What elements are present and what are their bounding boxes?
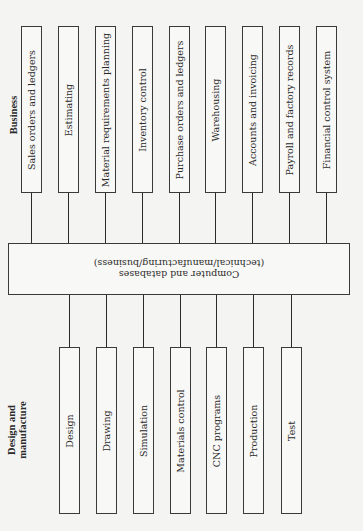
- connector-line: [143, 295, 144, 347]
- connector-line: [326, 193, 327, 243]
- business-item-box: Payroll and factory records: [279, 26, 300, 193]
- connector-line: [215, 193, 216, 243]
- connector-line: [31, 193, 32, 243]
- center-line1: Computer and databases: [94, 269, 265, 280]
- connector-line: [291, 295, 292, 347]
- design-item-label: CNC programs: [212, 394, 222, 466]
- business-item-box: Financial control system: [316, 26, 337, 193]
- business-item-label: Warehousing: [211, 78, 221, 141]
- business-item-label: Financial control system: [322, 50, 332, 168]
- connector-line: [179, 193, 180, 243]
- business-item-box: Estimating: [58, 26, 79, 193]
- connector-line: [105, 193, 106, 243]
- design-label-line1: Design and: [6, 401, 17, 459]
- business-item-label: Purchase orders and ledgers: [175, 40, 185, 179]
- connector-line: [142, 193, 143, 243]
- business-item-label: Estimating: [64, 83, 74, 135]
- design-item-label: Test: [287, 421, 297, 441]
- connector-line: [253, 295, 254, 347]
- design-item-label: Design: [65, 414, 75, 447]
- business-item-label: Payroll and factory records: [285, 44, 295, 175]
- design-item-box: Drawing: [96, 347, 117, 514]
- business-section-label: Business: [8, 96, 19, 135]
- design-item-label: Production: [249, 404, 259, 457]
- business-item-box: Warehousing: [205, 26, 226, 193]
- business-item-box: Sales orders and ledgers: [21, 26, 42, 193]
- design-item-box: CNC programs: [206, 347, 227, 514]
- connector-line: [252, 193, 253, 243]
- business-item-label: Material requirements planning: [101, 32, 111, 186]
- connector-line: [180, 295, 181, 347]
- center-line2: (technical/manufacturing/business): [94, 258, 265, 269]
- design-item-box: Production: [243, 347, 264, 514]
- business-item-box: Material requirements planning: [95, 26, 116, 193]
- design-item-box: Materials control: [170, 347, 191, 514]
- business-item-box: Inventory control: [132, 26, 153, 193]
- connector-line: [289, 193, 290, 243]
- design-item-label: Materials control: [176, 389, 186, 472]
- business-item-box: Accounts and invoicing: [242, 26, 263, 193]
- design-item-box: Test: [281, 347, 302, 514]
- design-item-label: Simulation: [139, 404, 149, 456]
- business-item-label: Inventory control: [138, 68, 148, 152]
- connector-line: [216, 295, 217, 347]
- business-item-label: Accounts and invoicing: [248, 54, 258, 166]
- computer-databases-text: Computer and databases (technical/manufa…: [94, 258, 265, 280]
- design-label-line2: manufacture: [17, 401, 28, 459]
- design-item-box: Simulation: [133, 347, 154, 514]
- computer-databases-box: Computer and databases (technical/manufa…: [8, 243, 350, 295]
- design-manufacture-section-label: Design and manufacture: [6, 401, 28, 459]
- connector-line: [68, 193, 69, 243]
- connector-line: [106, 295, 107, 347]
- business-item-label: Sales orders and ledgers: [27, 50, 37, 170]
- design-item-label: Drawing: [102, 410, 112, 451]
- business-label-text: Business: [8, 96, 19, 135]
- connector-line: [69, 295, 70, 347]
- design-item-box: Design: [59, 347, 80, 514]
- business-item-box: Purchase orders and ledgers: [169, 26, 190, 193]
